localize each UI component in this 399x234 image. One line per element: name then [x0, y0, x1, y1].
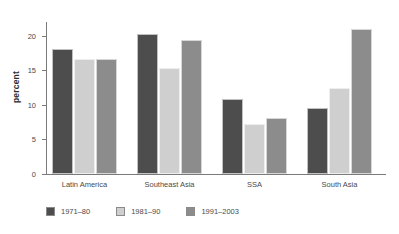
- y-tick-label: 0: [32, 170, 36, 179]
- legend: 1971–801981–901991–2003: [46, 207, 265, 216]
- bar-chart: percent 05101520 Latin AmericaSoutheast …: [0, 0, 399, 234]
- plot-area: 05101520 Latin AmericaSoutheast AsiaSSAS…: [46, 22, 386, 174]
- bar: [52, 49, 73, 174]
- legend-item[interactable]: 1971–80: [46, 207, 90, 216]
- legend-label: 1971–80: [61, 207, 90, 216]
- y-tick-label: 15: [28, 66, 36, 75]
- y-axis-label: percent: [11, 57, 21, 117]
- bar: [159, 68, 180, 174]
- y-tick-label: 20: [28, 31, 36, 40]
- bar: [351, 29, 372, 174]
- legend-swatch-icon: [46, 207, 55, 216]
- y-tick-label: 10: [28, 100, 36, 109]
- bar: [222, 99, 243, 174]
- y-tick: 5: [42, 139, 46, 140]
- legend-label: 1981–90: [131, 207, 160, 216]
- bar-group: [52, 22, 117, 174]
- legend-swatch-icon: [116, 207, 125, 216]
- y-tick: 10: [42, 105, 46, 106]
- y-axis-line: [46, 22, 47, 174]
- bar: [137, 34, 158, 174]
- bar: [329, 88, 350, 174]
- y-tick: 0: [42, 174, 46, 175]
- x-axis-line: [46, 174, 386, 175]
- bar: [74, 59, 95, 174]
- legend-item[interactable]: 1981–90: [116, 207, 160, 216]
- y-tick: 20: [42, 36, 46, 37]
- legend-label: 1991–2003: [201, 207, 239, 216]
- x-axis-category-label: South Asia: [280, 180, 399, 189]
- y-tick: 15: [42, 70, 46, 71]
- bar: [181, 40, 202, 174]
- legend-item[interactable]: 1991–2003: [186, 207, 239, 216]
- bar: [244, 124, 265, 174]
- bar-group: [307, 22, 372, 174]
- bar: [266, 118, 287, 174]
- bar: [307, 108, 328, 174]
- bar-group: [137, 22, 202, 174]
- bar: [96, 59, 117, 174]
- y-tick-label: 5: [32, 135, 36, 144]
- bar-group: [222, 22, 287, 174]
- legend-swatch-icon: [186, 207, 195, 216]
